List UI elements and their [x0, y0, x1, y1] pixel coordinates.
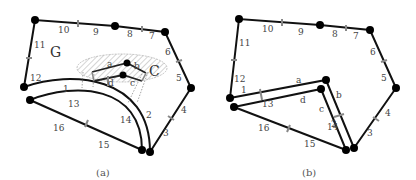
- edge-label: 10: [262, 24, 274, 34]
- edge-label: 3: [163, 128, 169, 138]
- edge-label: 15: [304, 139, 316, 149]
- edge-label: 14: [327, 122, 339, 132]
- vertex: [26, 96, 34, 104]
- vertex: [342, 146, 350, 154]
- inner-edge-label: c: [319, 104, 324, 114]
- vertex: [161, 28, 169, 36]
- edge-label: 3: [367, 128, 373, 138]
- edge-label: 10: [58, 25, 70, 35]
- edge-label: 7: [149, 31, 155, 41]
- vertex: [235, 15, 243, 23]
- panel-b: 10 9 8 7 6 5 4 3 2 1 11 12 13 14 15 16 a…: [226, 15, 400, 178]
- diagram-svg: 10 9 8 7 6 5 4 3 2 1 11 12 13 14 15 16 a…: [0, 0, 416, 180]
- vertex: [146, 148, 154, 156]
- edge-label: 11: [239, 38, 250, 48]
- inner-edge-label: d: [108, 78, 114, 88]
- edge-label: 16: [53, 123, 65, 133]
- edge-label: 12: [30, 73, 41, 83]
- edge-label: 8: [127, 29, 133, 39]
- caption-a: (a): [96, 167, 110, 178]
- edge-label: 4: [385, 108, 391, 118]
- inner-edge-label: b: [134, 61, 140, 71]
- vertex: [138, 146, 146, 154]
- edge-label: 5: [176, 73, 182, 83]
- edge-label: 12: [234, 74, 245, 84]
- vertex: [226, 94, 234, 102]
- inner-edge-label: c: [130, 78, 135, 88]
- labels-a: 10 9 8 7 6 5 4 3 2 1 11 12 13 14 15 16 a…: [30, 25, 187, 178]
- edge-label: 1: [63, 84, 69, 94]
- edge-label: 9: [93, 27, 99, 37]
- labels-b: 10 9 8 7 6 5 4 3 2 1 11 12 13 14 15 16 a…: [234, 24, 391, 178]
- vertex: [322, 76, 330, 84]
- edge-label: 1: [241, 85, 247, 95]
- edge-label: 14: [120, 115, 132, 125]
- edge-label: 11: [34, 40, 45, 50]
- edge-label: 15: [98, 140, 110, 150]
- vertex: [120, 72, 127, 79]
- vertex: [31, 16, 39, 24]
- panel-a: 10 9 8 7 6 5 4 3 2 1 11 12 13 14 15 16 a…: [20, 16, 195, 178]
- inner-edge-label: a: [107, 59, 113, 69]
- edge-label: 2: [146, 110, 152, 120]
- vertex: [317, 85, 325, 93]
- vertex: [111, 22, 119, 30]
- inner-edge-label: b: [336, 90, 342, 100]
- vertex: [187, 84, 195, 92]
- vertex: [124, 60, 131, 67]
- path-13-d-c-14: [234, 89, 346, 150]
- region-label-g: G: [50, 44, 61, 60]
- edge-label: 9: [298, 27, 304, 37]
- vertices-b: [226, 15, 400, 154]
- edge-label: 13: [262, 99, 274, 109]
- vertex: [20, 83, 28, 91]
- figure: 10 9 8 7 6 5 4 3 2 1 11 12 13 14 15 16 a…: [0, 0, 416, 180]
- edge-label: 4: [181, 105, 187, 115]
- edge-label: 16: [258, 123, 270, 133]
- edge-label: 6: [165, 47, 171, 57]
- vertex: [392, 84, 400, 92]
- inner-edge-label: a: [296, 75, 302, 85]
- component-label-c: C: [149, 63, 160, 79]
- edge-label: 13: [68, 99, 80, 109]
- vertex: [366, 26, 374, 34]
- edge-label: 7: [353, 31, 359, 41]
- vertex: [230, 103, 238, 111]
- vertex: [316, 21, 324, 29]
- inner-edge-label: d: [300, 95, 306, 105]
- edge-label: 5: [381, 73, 387, 83]
- caption-b: (b): [302, 167, 316, 178]
- edge-label: 8: [332, 29, 338, 39]
- vertex: [350, 144, 358, 152]
- edge-label: 6: [370, 47, 376, 57]
